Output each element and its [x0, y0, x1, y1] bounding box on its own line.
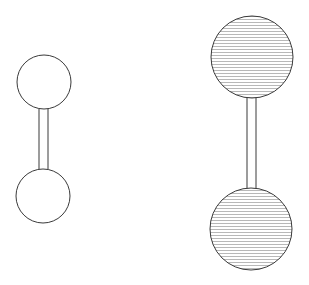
connecting-bar: [247, 97, 256, 189]
top-circle: [211, 16, 293, 98]
large-dumbbell: [210, 16, 293, 270]
top-circle: [17, 55, 71, 109]
small-dumbbell: [16, 55, 71, 223]
connecting-bar: [39, 108, 48, 170]
bottom-circle: [16, 169, 70, 223]
bottom-circle: [210, 188, 292, 270]
diagram-canvas: [0, 0, 309, 285]
